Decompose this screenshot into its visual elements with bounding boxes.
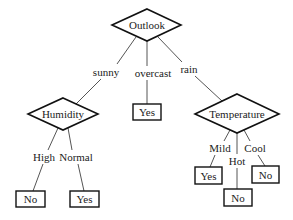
node-label-outlook: Outlook <box>129 19 166 31</box>
edge-label-rain: rain <box>180 63 198 75</box>
leaf-label: No <box>24 193 38 205</box>
leaf-label: Yes <box>200 170 216 182</box>
edge-line-normal-upper <box>68 128 72 150</box>
edge-label-normal: Normal <box>59 151 93 163</box>
node-label-humidity: Humidity <box>42 108 85 120</box>
decision-node-temperature: Temperature <box>195 94 279 133</box>
leaf-node-overcast: Yes <box>133 104 161 120</box>
leaf-node-temperature-hot: No <box>224 189 252 206</box>
edge-line-rain-lower <box>195 76 222 101</box>
node-label-temperature: Temperature <box>209 108 265 120</box>
edge-label-hot: Hot <box>229 155 246 167</box>
leaf-node-temperature-cool: No <box>252 166 279 183</box>
edge-line-sunny-lower <box>76 79 101 104</box>
leaf-node-humidity-high: No <box>16 191 45 207</box>
leaf-label: Yes <box>139 106 155 118</box>
decision-tree-diagram: Outlook Humidity Temperature sunny overc… <box>0 0 293 220</box>
edge-label-cool: Cool <box>244 142 265 154</box>
leaf-label: No <box>231 192 245 204</box>
leaf-node-humidity-normal: Yes <box>70 191 99 207</box>
edge-label-mild: Mild <box>209 142 231 154</box>
edge-line-cool-lower <box>258 155 265 166</box>
decision-node-humidity: Humidity <box>28 98 98 130</box>
edge-line-rain-upper <box>158 37 182 62</box>
edge-line-mild-upper <box>224 130 230 141</box>
edge-label-overcast: overcast <box>135 67 172 79</box>
leaf-label: Yes <box>76 193 92 205</box>
edge-label-high: High <box>33 151 56 163</box>
edge-label-sunny: sunny <box>93 66 120 78</box>
edge-line-normal-lower <box>78 164 84 191</box>
edge-line-sunny-upper <box>117 37 136 64</box>
edge-line-high-upper <box>48 128 58 150</box>
edge-line-high-lower <box>33 164 43 191</box>
edge-line-mild-lower <box>210 155 215 167</box>
leaf-label: No <box>259 169 273 181</box>
leaf-node-temperature-mild: Yes <box>195 167 222 184</box>
edge-line-cool-upper <box>244 130 250 141</box>
decision-node-outlook: Outlook <box>112 9 181 41</box>
